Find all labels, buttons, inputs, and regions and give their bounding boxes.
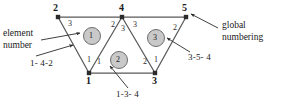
node-dot-2 xyxy=(56,15,60,19)
element-circle-3 xyxy=(148,30,165,47)
edge-4-3 xyxy=(122,17,155,73)
element-circle-2 xyxy=(111,52,128,69)
mesh-drawing xyxy=(0,0,283,108)
edge-2-1 xyxy=(58,17,89,73)
leader-conn-e2 xyxy=(110,66,128,88)
node-dot-5 xyxy=(184,15,188,19)
node-dot-3 xyxy=(153,71,157,75)
leader-conn-e1 xyxy=(36,45,73,56)
node-dot-4 xyxy=(120,15,124,19)
leader-element-number xyxy=(41,33,80,40)
leader-global-numbering xyxy=(191,14,218,28)
figure-canvas: 2 4 5 1 3 1 2 3 3 1 2 1 3 2 3 2 1 elemen… xyxy=(0,0,283,108)
node-dot-1 xyxy=(87,71,91,75)
element-circle-1 xyxy=(84,28,101,45)
